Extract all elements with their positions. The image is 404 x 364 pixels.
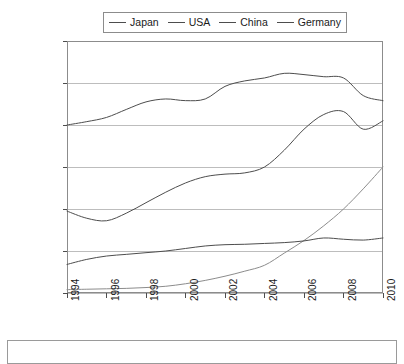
x-axis-tick-label: 1998	[150, 279, 160, 301]
x-axis-tick-label: 2004	[269, 279, 279, 301]
x-axis-tick-label: 2000	[190, 279, 200, 301]
x-axis-tick-label: 1996	[111, 279, 121, 301]
x-axis-tick-label: 2008	[348, 279, 358, 301]
x-axis-tick-label: 2006	[308, 279, 318, 301]
footer-panel	[7, 340, 397, 364]
x-axis-tick-label: 2010	[387, 279, 397, 301]
x-axis-tick-label: 2002	[229, 279, 239, 301]
x-axis-tick-label: 1994	[71, 279, 81, 301]
